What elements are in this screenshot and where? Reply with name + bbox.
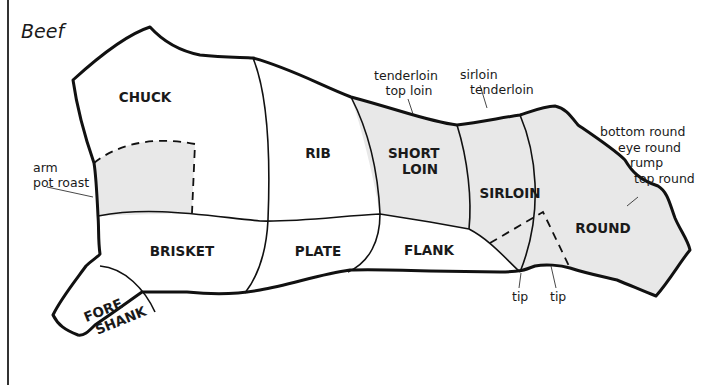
label-rib: RIB xyxy=(305,145,331,161)
leader-short-loin xyxy=(408,99,413,114)
label-chuck: CHUCK xyxy=(119,89,172,105)
callout-arm-pot-roast: arm pot roast xyxy=(33,160,89,190)
callout-sirloin: sirloin tenderloin xyxy=(460,67,534,97)
callout-tip-1: tip xyxy=(512,289,528,304)
label-sirloin: SIRLOIN xyxy=(479,185,540,201)
label-round: ROUND xyxy=(575,220,630,236)
region-arm-pot-roast[interactable] xyxy=(94,141,195,216)
label-brisket: BRISKET xyxy=(150,243,215,259)
line-chuck-rib xyxy=(245,58,269,293)
leader-tip-1 xyxy=(519,273,521,288)
leader-tip-2 xyxy=(551,266,556,288)
label-flank: FLANK xyxy=(404,242,455,258)
callout-tip-2: tip xyxy=(550,289,566,304)
label-plate: PLATE xyxy=(295,243,341,259)
callout-short-loin: tenderloin top loin xyxy=(374,68,442,98)
beef-cuts-diagram: CHUCK RIB SHORT LOIN SIRLOIN ROUND BRISK… xyxy=(0,0,709,385)
